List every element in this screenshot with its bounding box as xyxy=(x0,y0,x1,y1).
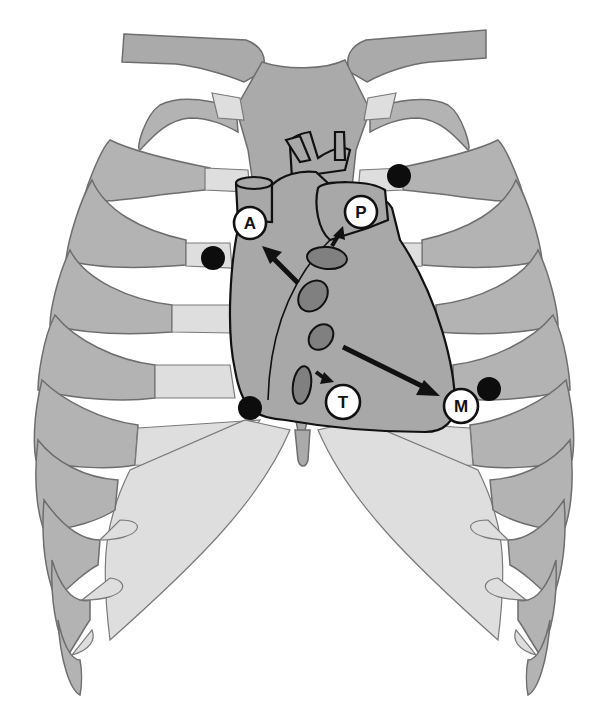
right-clavicle xyxy=(348,30,486,82)
pulmonic-dot xyxy=(387,164,411,188)
label-aortic: A xyxy=(234,207,266,239)
label-pulmonic-text: P xyxy=(355,203,366,222)
xiphoid-process xyxy=(295,430,310,466)
aortic-dot xyxy=(201,246,225,270)
label-tricuspid: T xyxy=(326,385,360,419)
mitral-dot xyxy=(477,377,501,401)
label-aortic-text: A xyxy=(244,214,256,233)
label-mitral-text: M xyxy=(454,397,468,416)
label-mitral: M xyxy=(444,389,478,423)
left-clavicle xyxy=(122,34,264,82)
brachiocephalic xyxy=(335,132,345,160)
chest-diagram: A P T M xyxy=(0,0,609,705)
label-tricuspid-text: T xyxy=(338,393,349,412)
tricuspid-dot xyxy=(238,396,262,420)
label-pulmonic: P xyxy=(345,196,377,228)
